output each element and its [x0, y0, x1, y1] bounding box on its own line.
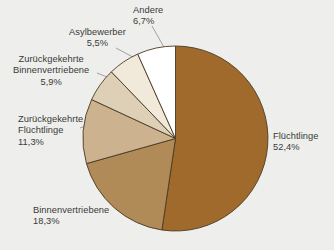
slice-label-zurueckgekehrte-binnenvertriebene-value: 5,9%: [13, 77, 89, 88]
slice-label-binnenvertriebene: Binnenvertriebene 18,3%: [33, 205, 109, 228]
slice-label-fluechtlinge-value: 52,4%: [273, 142, 319, 153]
leader-line-andere: [152, 26, 165, 49]
slice-label-zurueckgekehrte-binnenvertriebene-line1: Zurückgekehrte: [13, 54, 89, 65]
pie-slice[interactable]: [162, 46, 268, 231]
slice-label-binnenvertriebene-value: 18,3%: [33, 216, 109, 227]
slice-label-fluechtlinge: Flüchtlinge 52,4%: [273, 131, 319, 154]
slice-label-zurueckgekehrte-fluechtlinge-value: 11,3%: [18, 137, 83, 148]
pie-slices-group: [83, 46, 268, 231]
pie-chart: Flüchtlinge 52,4% Binnenvertriebene 18,3…: [0, 0, 334, 250]
slice-label-asylbewerber-name: Asylbewerber: [69, 27, 126, 38]
slice-label-asylbewerber: Asylbewerber 5,5%: [69, 27, 126, 50]
slice-label-zurueckgekehrte-fluechtlinge-line2: Flüchtlinge: [18, 125, 83, 136]
slice-label-andere-name: Andere: [133, 5, 163, 16]
slice-label-andere: Andere 6,7%: [133, 5, 163, 28]
slice-label-zurueckgekehrte-binnenvertriebene-line2: Binnenvertriebene: [13, 65, 89, 76]
slice-label-andere-value: 6,7%: [133, 16, 163, 27]
slice-label-asylbewerber-value: 5,5%: [69, 38, 126, 49]
slice-label-zurueckgekehrte-fluechtlinge-line1: Zurückgekehrte: [18, 114, 83, 125]
slice-label-binnenvertriebene-name: Binnenvertriebene: [33, 205, 109, 216]
slice-label-fluechtlinge-name: Flüchtlinge: [273, 131, 319, 142]
slice-label-zurueckgekehrte-fluechtlinge: Zurückgekehrte Flüchtlinge 11,3%: [18, 114, 83, 148]
slice-label-zurueckgekehrte-binnenvertriebene: Zurückgekehrte Binnenvertriebene 5,9%: [13, 54, 89, 88]
